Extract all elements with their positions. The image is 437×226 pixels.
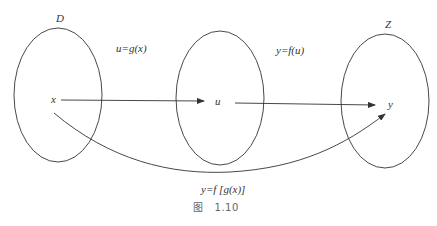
caption-prefix: 图 <box>193 202 204 213</box>
point-y-label: y <box>388 99 393 110</box>
mapping-composite-label: y=f [g(x)] <box>201 184 245 195</box>
arrow-g <box>61 100 204 101</box>
mapping-g-label: u=g(x) <box>116 43 147 54</box>
mapping-f-label: y=f(u) <box>276 45 304 56</box>
set-d-label: D <box>56 13 64 24</box>
arrow-f <box>235 103 375 105</box>
point-u-label: u <box>215 96 221 107</box>
caption-number: 1.10 <box>215 202 239 213</box>
figure-caption: 图 1.10 <box>193 203 239 213</box>
arrow-composite <box>54 113 385 172</box>
set-d-ellipse <box>14 28 102 162</box>
set-z-ellipse <box>341 34 429 168</box>
point-x-label: x <box>51 94 56 105</box>
set-z-label: Z <box>385 19 391 30</box>
